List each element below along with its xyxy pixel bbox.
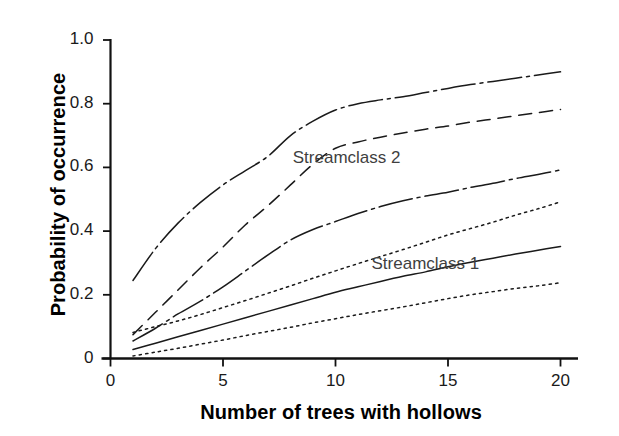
series-line-curve-4	[133, 202, 561, 333]
series-line-curve-2	[133, 109, 561, 334]
series-line-curve-1	[133, 72, 561, 281]
y-tick-label: 0.2	[48, 284, 94, 304]
x-tick-label: 5	[203, 371, 243, 391]
y-tick-label: 0	[48, 348, 94, 368]
y-tick-label: 0.8	[48, 93, 94, 113]
x-axis-title: Number of trees with hollows	[110, 401, 572, 424]
x-tick-label: 20	[541, 371, 581, 391]
series-annotation-label: Streamclass 1	[372, 254, 480, 274]
x-tick-label: 0	[91, 371, 131, 391]
x-tick-label: 10	[316, 371, 356, 391]
y-tick-label: 0.4	[48, 220, 94, 240]
y-tick-label: 0.6	[48, 156, 94, 176]
series-line-curve-6	[133, 283, 561, 356]
x-tick-label: 15	[428, 371, 468, 391]
series-line-curve-5	[133, 246, 561, 349]
y-tick-label: 1.0	[48, 29, 94, 49]
probability-of-occurrence-chart: Probability of occurrence Number of tree…	[0, 0, 619, 436]
series-annotation-label: Streamclass 2	[293, 148, 401, 168]
